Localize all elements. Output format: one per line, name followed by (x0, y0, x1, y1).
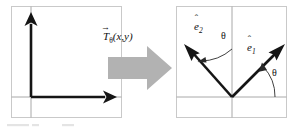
e1-label: e1 (247, 42, 256, 56)
transform-arguments: (x,y) (113, 30, 133, 42)
transform-symbol: T (103, 31, 109, 42)
figure-graphics (0, 0, 297, 129)
e2-symbol: e (194, 21, 199, 32)
caption-ghost-marks (7, 124, 74, 126)
transform-label: Tθ(x,y) (103, 31, 133, 45)
e2-subscript: 2 (199, 26, 203, 35)
e1-subscript: 1 (252, 47, 256, 56)
right-panel-group (177, 7, 287, 118)
theta-lower-label: θ (272, 68, 277, 78)
e2-label: e2 (194, 21, 203, 35)
e1-symbol: e (247, 42, 252, 53)
figure-container: Tθ(x,y) e2 e1 θ θ (0, 0, 297, 129)
theta-upper-label: θ (221, 31, 226, 41)
